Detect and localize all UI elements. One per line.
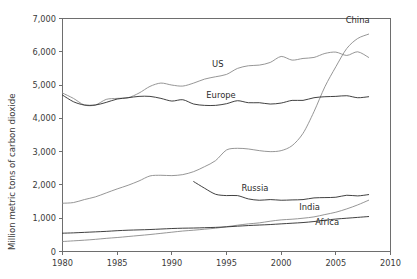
series-line-russia (194, 182, 369, 201)
series-label-us: US (212, 59, 223, 69)
x-tick-label: 2005 (325, 258, 346, 268)
x-tick-label: 1990 (161, 258, 182, 268)
y-tick-label: 6,000 (33, 47, 56, 57)
y-tick-label: 7,000 (33, 14, 56, 24)
x-tick-label: 2010 (380, 258, 401, 268)
x-tick-label: 2000 (271, 258, 292, 268)
y-tick-label: 4,000 (33, 113, 56, 123)
x-axis-ticks: 1980198519901995200020052010 (52, 252, 401, 268)
x-tick-label: 1980 (52, 258, 73, 268)
y-tick-label: 2,000 (33, 180, 56, 190)
y-tick-label: 5,000 (33, 80, 56, 90)
y-axis-ticks: 01,0002,0003,0004,0005,0006,0007,000 (33, 14, 63, 257)
chart-container: Million metric tons of carbon dioxide 01… (0, 0, 417, 279)
y-tick-label: 0 (51, 247, 56, 257)
series-label-china: China (346, 15, 370, 25)
x-tick-label: 1995 (216, 258, 237, 268)
y-tick-label: 1,000 (33, 213, 56, 223)
y-axis-title: Million metric tons of carbon dioxide (7, 93, 17, 250)
emissions-line-chart: Million metric tons of carbon dioxide 01… (0, 0, 417, 279)
y-tick-label: 3,000 (33, 147, 56, 157)
series-label-europe: Europe (206, 90, 235, 100)
series-label-africa: Africa (315, 217, 339, 227)
series-label-india: India (299, 202, 320, 212)
y-axis-title-group: Million metric tons of carbon dioxide (7, 93, 17, 250)
series-label-russia: Russia (241, 183, 268, 193)
x-tick-label: 1985 (107, 258, 128, 268)
